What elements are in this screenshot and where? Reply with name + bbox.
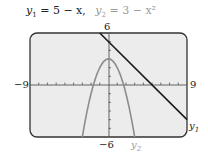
ymin-label: −6 [99, 139, 114, 150]
xmin-label: −9 [14, 79, 29, 90]
y2-series-label: y2 [131, 139, 141, 153]
y1-series-label: y1 [189, 120, 199, 134]
y2-label-sub: 2 [137, 145, 141, 153]
ymax-label: 6 [104, 21, 110, 32]
y1-label-sub: 1 [195, 126, 199, 134]
xmax-label: 9 [190, 79, 196, 90]
